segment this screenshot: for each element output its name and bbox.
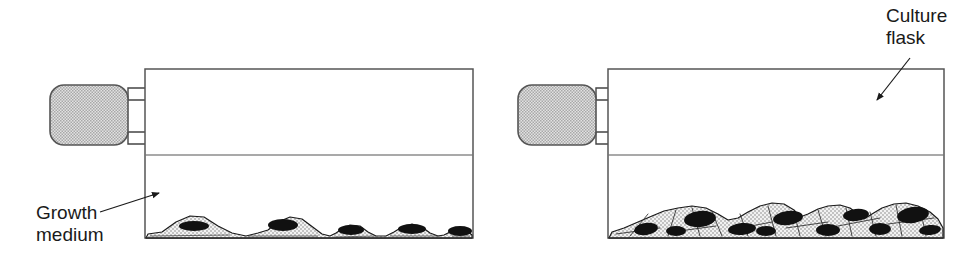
cell-nucleus [816,224,840,236]
flask-body-left [145,69,473,238]
culture-flask-label-line2: flask [886,27,926,48]
growth-medium-label-line1: Growth [36,202,97,223]
neck-upper-left [128,88,146,100]
flask-cap-right [518,85,596,145]
cell-nucleus [179,221,209,231]
cell-nucleus [268,219,298,231]
cell-nucleus [756,226,776,236]
cell-nucleus [398,224,426,234]
cell-nucleus [666,226,686,236]
flask-cap-left [50,85,128,145]
cell-nucleus [448,226,472,236]
cell-nucleus [338,225,364,235]
cell-nucleus [869,223,891,235]
culture-flask-diagram: Culture flask Growth medium [0,0,974,257]
growth-medium-label-line2: medium [36,224,104,245]
culture-flask-label-line1: Culture [886,5,947,26]
neck-lower-left [128,132,146,144]
